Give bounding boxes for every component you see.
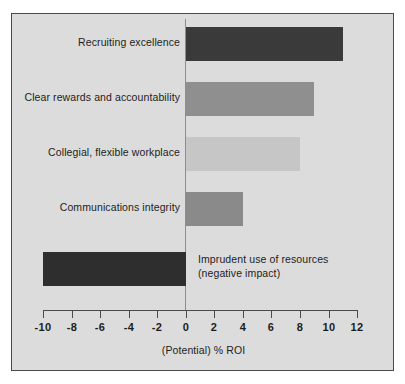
bar-imprudent-use-of-resources [43,252,186,286]
x-axis-tick [129,310,130,318]
x-axis-tick-label: 0 [173,321,199,333]
x-axis-tick [357,310,358,318]
x-axis-tick-label: -2 [144,321,170,333]
bar-clear-rewards-and-accountability [186,82,314,116]
chart-plot-area: Recruiting excellence Clear rewards and … [11,13,394,371]
x-axis-tick-label: 12 [344,321,370,333]
x-axis-tick-label: -4 [116,321,142,333]
x-axis-tick-label: 4 [230,321,256,333]
bar-recruiting-excellence [186,27,343,61]
bar-communications-integrity [186,192,243,226]
figure-canvas: Recruiting excellence Clear rewards and … [0,0,405,384]
x-axis-tick-label: -10 [30,321,56,333]
x-axis-tick [186,310,187,318]
x-axis-tick-label: 10 [316,321,342,333]
x-axis-tick [100,310,101,318]
bar-row: Recruiting excellence [12,19,395,74]
x-axis-tick-label: -8 [59,321,85,333]
x-axis-tick [300,310,301,318]
bar-label-line-2: (negative impact) [198,267,280,279]
x-axis-title: (Potential) % ROI [12,344,395,356]
x-axis-tick [43,310,44,318]
x-axis-tick [157,310,158,318]
bar-label-line-1: Imprudent use of resources [198,253,328,265]
bar-label-imprudent-use-of-resources: Imprudent use of resources(negative impa… [198,252,378,280]
bar-label-recruiting-excellence: Recruiting excellence [78,36,180,48]
x-axis-tick [214,310,215,318]
bar-row: Imprudent use of resources(negative impa… [12,244,395,299]
bar-collegial-flexible-workplace [186,137,300,171]
bar-label-collegial-flexible-workplace: Collegial, flexible workplace [48,146,180,158]
bar-row: Clear rewards and accountability [12,74,395,129]
x-axis-tick [243,310,244,318]
x-axis-tick [72,310,73,318]
bar-row: Collegial, flexible workplace [12,129,395,184]
x-axis-tick [329,310,330,318]
x-axis-tick-label: 6 [258,321,284,333]
x-axis-tick-label: 2 [201,321,227,333]
x-axis: -10 -8 -6 -4 -2 0 2 4 6 8 10 12 (Potenti… [12,310,395,372]
x-axis-tick [271,310,272,318]
x-axis-line [43,310,358,311]
bar-row: Communications integrity [12,184,395,239]
bar-label-communications-integrity: Communications integrity [60,201,180,213]
bar-label-clear-rewards-and-accountability: Clear rewards and accountability [24,91,180,103]
x-axis-tick-label: -6 [87,321,113,333]
x-axis-tick-label: 8 [287,321,313,333]
